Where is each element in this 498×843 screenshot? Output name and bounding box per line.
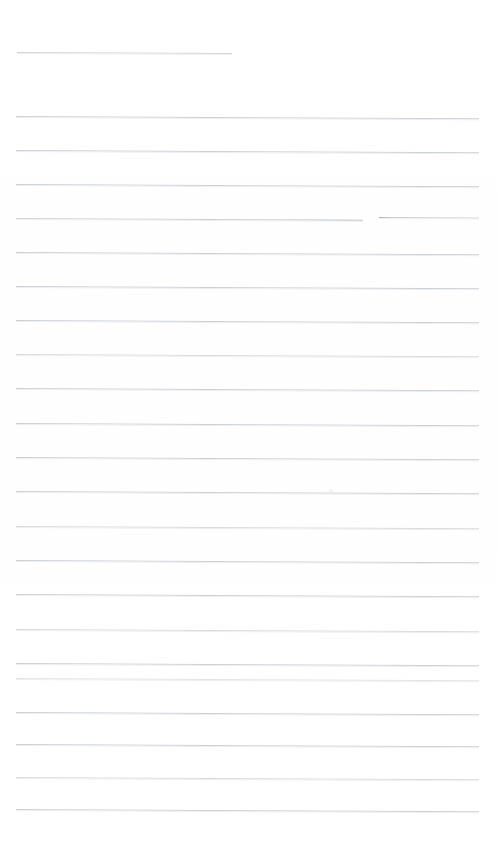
- scanned-page: [0, 0, 498, 843]
- page-body-text: [0, 0, 498, 843]
